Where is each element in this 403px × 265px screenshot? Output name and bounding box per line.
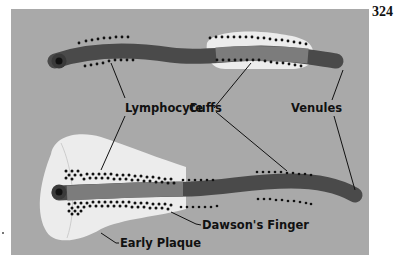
- label-dawsons-finger: Dawson's Finger: [202, 218, 309, 232]
- label-venules: Venules: [291, 101, 342, 115]
- upper-venule-lumen: [56, 58, 63, 65]
- lower-venule-lumen: [56, 189, 63, 196]
- dawsons-finger-segment: [67, 189, 183, 193]
- diagram-panel: Lymphocyte Cuffs Venules Dawson's Finger…: [11, 9, 369, 255]
- upper-demyelinated-segment: [216, 54, 308, 56]
- venule-plaque-diagram: Lymphocyte Cuffs Venules Dawson's Finger…: [11, 9, 369, 255]
- scan-artifact: [2, 232, 4, 234]
- label-cuffs: Cuffs: [189, 101, 222, 115]
- page-number: 324: [372, 4, 393, 20]
- label-early-plaque: Early Plaque: [120, 236, 201, 250]
